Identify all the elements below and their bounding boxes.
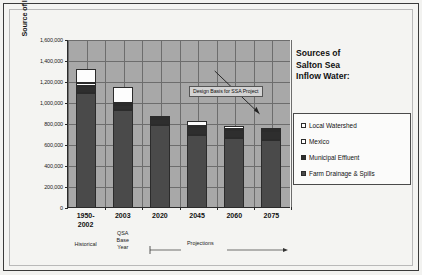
bar-segment[interactable] [76,86,96,92]
x-axis-label: 2075 [241,211,301,220]
bar-segment[interactable] [113,87,133,103]
y-axis-title: Source of Inflow (AFY) [20,0,29,54]
legend-label: Mexico [309,138,329,145]
projections-label: Projections [187,240,214,246]
bar-segment[interactable] [224,126,244,129]
bar-stack[interactable] [261,40,281,208]
bar-segment[interactable] [113,105,133,110]
chart: Source of Inflow (AFY) 1,600,0001,400,00… [22,18,292,248]
y-tick-label: 200,000 [44,184,63,190]
plot-area: 1,600,0001,400,0001,200,0001,000,000800,… [67,40,290,208]
legend-label: Farm Drainage & Spills [309,170,375,177]
chart-title-line-2: Salton Sea [296,60,350,72]
y-tick-label: 800,000 [44,121,63,127]
bar-stack[interactable] [76,40,96,208]
bar-segment[interactable] [224,138,244,208]
annotation-design-basis: Design Basis for SSA Project [189,86,263,97]
bar-segment[interactable] [76,83,96,86]
bar-stack[interactable] [224,40,244,208]
y-tick-label: 1,200,000 [40,79,63,85]
bar-stack[interactable] [150,40,170,208]
legend: Local WatershedMexicoMunicipal EffluentF… [293,113,411,185]
x-axis-labels: Projections 1950-20022003202020452060207… [67,211,290,251]
chart-title-line-1: Sources of [296,48,350,60]
qsa-base-year-line-1: QSA [98,230,148,237]
bar-series-container [67,40,290,208]
bar-segment[interactable] [187,121,207,126]
bar-segment[interactable] [187,127,207,134]
qsa-base-year-line-3: Year [98,244,148,251]
bar-segment[interactable] [261,128,281,131]
bar-segment[interactable] [113,110,133,208]
y-tick-label: 600,000 [44,142,63,148]
bar-segment[interactable] [76,69,96,83]
x-tick-mark [291,207,292,210]
bar-segment[interactable] [261,140,281,208]
legend-item[interactable]: Municipal Effluent [301,154,359,161]
qsa-base-year-line-2: Base [98,237,148,244]
screenshot-root: Source of Inflow (AFY) 1,600,0001,400,00… [0,0,422,275]
legend-label: Municipal Effluent [309,154,359,161]
bar-stack[interactable] [113,40,133,208]
legend-swatch-icon [301,123,306,128]
bar-segment[interactable] [76,93,96,209]
bar-stack[interactable] [187,40,207,208]
bar-segment[interactable] [150,119,170,125]
legend-item[interactable]: Local Watershed [301,122,357,129]
x-gridline [291,40,292,207]
bar-segment[interactable] [261,131,281,139]
projections-arrow-icon [149,245,289,255]
chart-title-line-3: Inflow Water: [296,71,350,83]
bar-segment[interactable] [187,135,207,209]
chart-title: Sources of Salton Sea Inflow Water: [296,48,350,83]
legend-item[interactable]: Mexico [301,138,329,145]
legend-item[interactable]: Farm Drainage & Spills [301,170,375,177]
y-tick-label: 1,600,000 [40,37,63,43]
bar-segment[interactable] [224,130,244,138]
y-tick-label: 1,000,000 [40,100,63,106]
legend-swatch-icon [301,139,306,144]
projections-span: Projections [149,241,289,251]
bar-segment[interactable] [150,125,170,208]
y-tick-mark [65,208,68,209]
legend-swatch-icon [301,155,306,160]
y-tick-label: 1,400,000 [40,58,63,64]
bar-segment[interactable] [150,116,170,118]
legend-label: Local Watershed [309,122,357,129]
legend-swatch-icon [301,171,306,176]
y-tick-label: 400,000 [44,163,63,169]
bar-segment[interactable] [113,103,133,105]
